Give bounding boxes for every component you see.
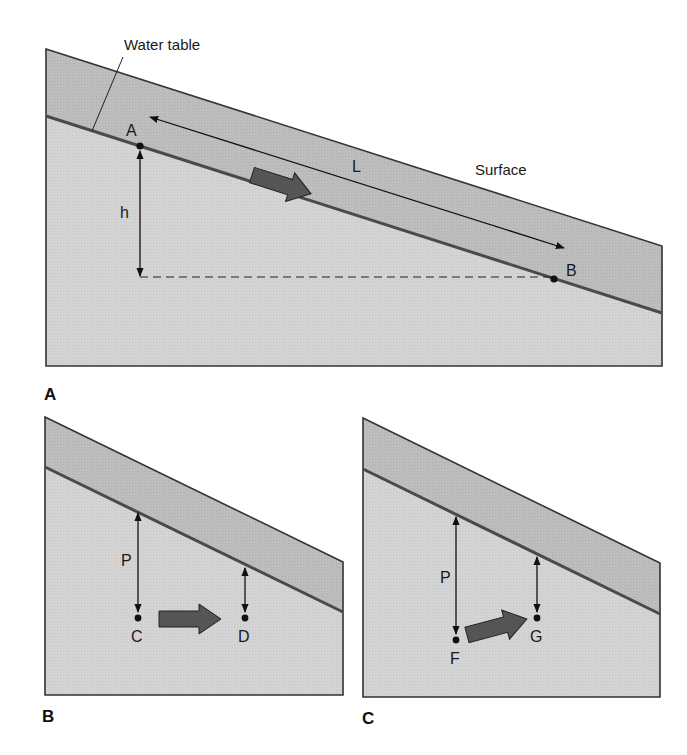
point-b bbox=[550, 275, 557, 282]
point-c-label: C bbox=[131, 628, 143, 645]
panel-b-label: B bbox=[42, 707, 54, 726]
pressure-label: P bbox=[121, 552, 132, 569]
water-table-label: Water table bbox=[124, 36, 200, 53]
length-label: L bbox=[352, 158, 361, 175]
panel-c: P F G C bbox=[362, 418, 660, 728]
point-g bbox=[534, 615, 541, 622]
panel-a-label: A bbox=[44, 385, 56, 404]
point-g-label: G bbox=[530, 628, 542, 645]
point-b-label: B bbox=[566, 262, 577, 279]
point-a-label: A bbox=[126, 122, 137, 139]
surface-label: Surface bbox=[475, 161, 527, 178]
panel-c-label: C bbox=[362, 709, 374, 728]
point-d-label: D bbox=[238, 628, 250, 645]
point-f bbox=[453, 637, 460, 644]
groundwater-flow-diagram: Water table Surface L A h B A P bbox=[0, 0, 687, 755]
point-f-label: F bbox=[450, 650, 460, 667]
point-a bbox=[136, 142, 143, 149]
pressure-label: P bbox=[440, 569, 451, 586]
panel-a: Water table Surface L A h B A bbox=[44, 36, 662, 404]
point-d bbox=[242, 615, 249, 622]
panel-b: P C D B bbox=[42, 417, 343, 726]
point-c bbox=[135, 615, 142, 622]
head-label: h bbox=[120, 204, 129, 221]
